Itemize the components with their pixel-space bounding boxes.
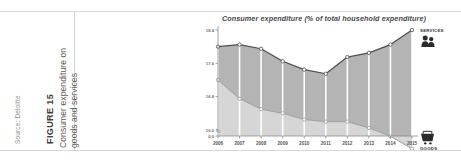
shopping-cart-icon [421, 131, 434, 144]
data-point [410, 147, 413, 150]
y-tick-label: 18.4 [206, 28, 215, 33]
x-tick-label: 2013 [364, 141, 375, 146]
data-point [367, 126, 370, 129]
x-tick-label: 2010 [299, 141, 310, 146]
x-tick-label: 2015 [407, 141, 418, 146]
data-point [281, 60, 284, 63]
data-point [303, 68, 306, 71]
figure-title-line-2: goods and services [69, 73, 79, 148]
bottom-divider [0, 150, 461, 151]
chart-container: Consumer expenditure (% of total househo… [200, 12, 461, 150]
source-credit: Source: Deloitte [14, 95, 21, 144]
data-point [389, 43, 392, 46]
data-point [410, 28, 413, 31]
data-point [281, 112, 284, 115]
data-point [238, 43, 241, 46]
figure-page: Source: Deloitte FIGURE 15 Consumer expe… [0, 0, 461, 160]
y-tick-label: 16.0 [206, 128, 215, 133]
data-point [324, 72, 327, 75]
x-tick-label: 2012 [342, 141, 353, 146]
x-tick-label: 2006 [213, 141, 224, 146]
people-icon [421, 36, 434, 48]
caption-panel: Source: Deloitte FIGURE 15 Consumer expe… [0, 12, 74, 150]
x-tick-label: 2008 [256, 141, 267, 146]
x-tick-label: 2007 [234, 141, 245, 146]
data-point [324, 120, 327, 123]
services-legend-label: SERVICES [420, 28, 444, 33]
data-point [259, 47, 262, 50]
x-tick-label: 2011 [321, 141, 331, 146]
figure-number: FIGURE 15 [45, 94, 55, 144]
figure-title-line-1: Consumer expenditure on [58, 48, 68, 148]
expenditure-area-chart: 18.417.616.816.00.0200620072008200920102… [200, 12, 461, 150]
x-tick-label: 2014 [385, 141, 396, 146]
goods-legend-label: GOODS [420, 146, 437, 150]
data-point [303, 118, 306, 121]
data-point [346, 55, 349, 58]
data-point [259, 107, 262, 110]
data-point [238, 97, 241, 100]
y-tick-label: 17.6 [206, 61, 215, 66]
x-tick-label: 2009 [278, 141, 289, 146]
y-tick-label: 16.8 [206, 94, 215, 99]
y-tick-label: 0.0 [208, 134, 214, 139]
data-point [367, 51, 370, 54]
data-point [346, 120, 349, 123]
